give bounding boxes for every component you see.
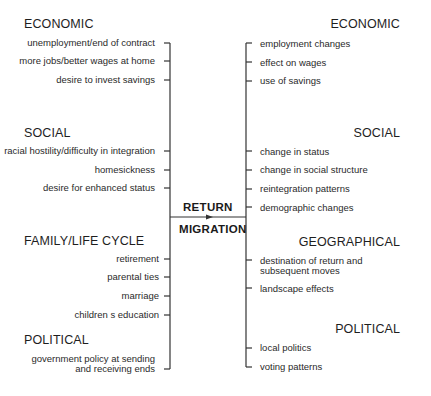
effects-economic-heading: ECONOMIC [330, 17, 400, 31]
effect-item: voting patterns [260, 361, 322, 372]
effect-item: employment changes [260, 38, 350, 49]
effect-item: subsequent moves [260, 265, 340, 276]
cause-item: racial hostility/difficulty in integrati… [4, 145, 155, 156]
effect-item: local politics [260, 342, 311, 353]
cause-item: desire to invest savings [56, 74, 155, 85]
effect-item: reintegration patterns [260, 183, 350, 194]
effect-item: effect on wages [260, 57, 326, 68]
effect-item: landscape effects [260, 283, 334, 294]
cause-item: marriage [122, 290, 160, 301]
effects-geographical-heading: GEOGRAPHICAL [299, 235, 400, 249]
arrow-icon [206, 215, 213, 220]
effect-item: change in social structure [260, 164, 368, 175]
cause-item: homesickness [95, 164, 155, 175]
causes-family-heading: FAMILY/LIFE CYCLE [24, 234, 144, 248]
effect-item: demographic changes [260, 202, 353, 213]
causes-social-heading: SOCIAL [24, 126, 70, 140]
effects-political-heading: POLITICAL [335, 322, 400, 336]
causes-economic-heading: ECONOMIC [24, 17, 94, 31]
cause-item: children s education [75, 309, 160, 320]
effects-social-heading: SOCIAL [354, 126, 400, 140]
causes-political-heading: POLITICAL [24, 333, 89, 347]
cause-item: desire for enhanced status [43, 182, 155, 193]
cause-item: parental ties [107, 271, 159, 282]
center-label-return: RETURN [183, 201, 233, 213]
cause-item: unemployment/end of contract [27, 37, 155, 48]
center-label-migration: MIGRATION [179, 223, 247, 235]
cause-item: more jobs/better wages at home [19, 55, 155, 66]
cause-item: retirement [116, 253, 159, 264]
effect-item: use of savings [260, 75, 321, 86]
cause-item: and receiving ends [75, 363, 155, 374]
effect-item: change in status [260, 146, 329, 157]
